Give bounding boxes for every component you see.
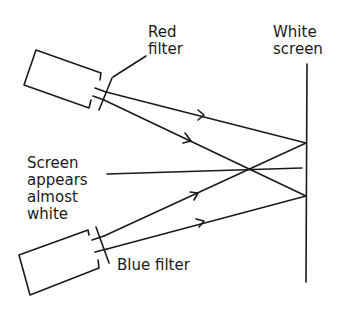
white-screen-line [306,64,307,282]
blue-rays [104,143,306,249]
top-projector [24,50,101,108]
screen-appears-label: Screen appears almost white [27,155,88,223]
red-filter-plate [93,78,112,110]
diagram-canvas: Red filter White screen Screen appears a… [0,0,354,310]
red-filter-leader [113,56,146,77]
blue-filter-label: Blue filter [117,257,190,274]
screen-appears-leader [107,168,302,174]
white-screen-label: White screen [273,24,323,58]
blue-filter-plate [92,227,109,263]
red-rays [104,92,306,196]
red-filter-label: Red filter [148,24,183,58]
bottom-projector [19,230,99,295]
